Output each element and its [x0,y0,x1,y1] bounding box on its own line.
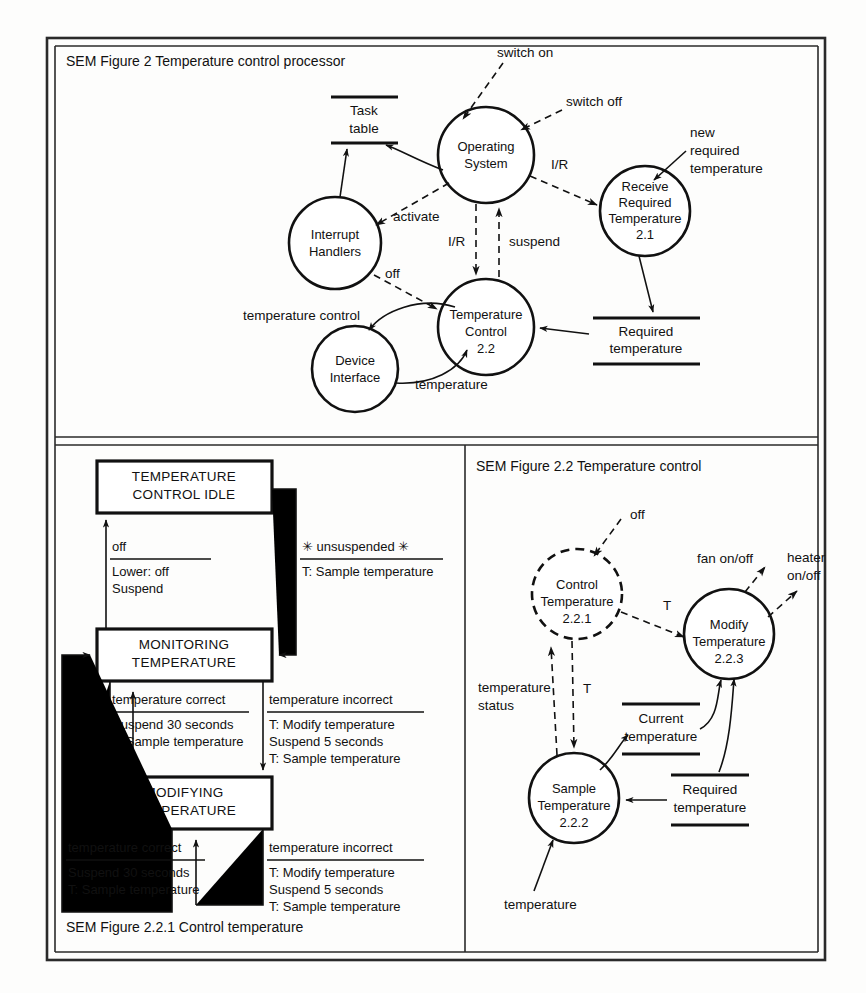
transition-mod-to-mon-condition: temperature correct [68,840,182,855]
store-required-temperature-line2: temperature [610,341,683,356]
diagram-canvas: SEM Figure 2 Temperature control process… [0,0,866,993]
transition-mod-self-action1: T: Modify temperature [269,865,395,880]
flow-new-required-line1: new [690,125,715,140]
process-device-interface-line1: Device [335,353,375,368]
transition-mon-to-idle-action1: Lower: off [112,564,169,579]
store-required-temperature-2-line1: Required [683,782,738,797]
store-required-temperature-2-line2: temperature [674,800,747,815]
transition-mon-to-mod-action3: T: Sample temperature [269,751,401,766]
process-sample-temperature-line2: Temperature [538,798,611,813]
flow-switch-off-label: switch off [566,94,622,109]
process-temperature-control-id: 2.2 [477,341,495,356]
store-current-temperature-line2: temperature [625,729,698,744]
flow-temperature-status-line2: status [478,698,514,713]
fig221-caption: SEM Figure 2.2.1 Control temperature [66,919,304,935]
flow-fan-on-off-label: fan on/off [697,551,753,566]
flow-off-control [594,519,621,556]
flow-t-control-to-sample [572,641,574,748]
fig2-caption: SEM Figure 2 Temperature control process… [66,53,345,69]
process-receive-line2: Required [619,195,672,210]
flow-new-required-line3: temperature [690,161,763,176]
transition-mod-self-line [196,829,263,905]
state-idle-line1: TEMPERATURE [132,469,236,484]
transition-mod-to-mon-action1: Suspend 30 seconds [68,865,190,880]
transition-mod-to-mon-action2: T: Sample temperature [68,882,200,897]
flow-required-store-to-modify [719,679,734,772]
flow-t-control-to-sample-label: T [583,681,591,696]
transition-mon-to-idle-condition: off [112,539,127,554]
process-operating-system-line1: Operating [457,139,514,154]
flow-temperature-control-label: temperature control [243,308,360,323]
transition-mod-self-action3: T: Sample temperature [269,899,401,914]
flow-heater-on-off [768,591,797,617]
process-control-temperature-line1: Control [556,577,598,592]
process-operating-system-line2: System [464,156,507,171]
transition-mod-self-action2: Suspend 5 seconds [269,882,384,897]
process-modify-temperature-id: 2.2.3 [715,651,744,666]
flow-switch-off [521,110,562,130]
process-operating-system[interactable] [438,107,534,203]
process-device-interface-line2: Interface [330,370,381,385]
process-interrupt-line2: Handlers [309,244,362,259]
process-modify-temperature-line2: Temperature [693,634,766,649]
transition-mon-to-idle-action2: Suspend [112,581,163,596]
process-receive-line1: Receive [622,179,669,194]
store-current-temperature-line1: Current [638,711,683,726]
state-monitoring-line1: MONITORING [139,637,230,652]
fig22-caption: SEM Figure 2.2 Temperature control [476,458,701,474]
flow-receive-to-store [639,256,653,312]
flow-suspend-label: suspend [509,234,560,249]
flow-t-control-to-modify-label: T [663,598,671,613]
transition-mon-to-mod-action2: Suspend 5 seconds [269,734,384,749]
state-monitoring-line2: TEMPERATURE [132,655,236,670]
process-sample-temperature-id: 2.2.2 [560,815,589,830]
flow-heater-on-off-line2: on/off [787,568,821,583]
flow-off-interrupt-label: off [385,266,400,281]
flow-off-control-label: off [630,507,645,522]
transition-mon-self-action1: Suspend 30 seconds [112,717,234,732]
process-receive-line3: Temperature [609,211,682,226]
process-modify-temperature-line1: Modify [710,617,749,632]
flow-temperature-status [551,647,557,755]
flow-store-to-temperature-control [540,328,589,334]
transition-mon-to-mod-action1: T: Modify temperature [269,717,395,732]
transition-mod-self-condition: temperature incorrect [269,840,393,855]
state-idle-line2: CONTROL IDLE [133,487,236,502]
transition-idle-to-mon-line [272,489,296,655]
flow-current-store-to-modify [700,680,721,729]
flow-os-to-task-table [386,145,443,170]
store-task-table-line2: table [349,121,378,136]
process-interrupt-handlers[interactable] [289,197,381,289]
flow-temperature-label: temperature [415,377,488,392]
flow-temperature-in-label: temperature [504,897,577,912]
flow-activate-label: activate [393,209,440,224]
flow-ir-down-label: I/R [448,234,466,249]
process-device-interface[interactable] [312,326,398,412]
store-required-temperature-line1: Required [619,324,674,339]
process-receive-id: 2.1 [636,227,654,242]
transition-idle-to-mon-condition: ✳ unsuspended ✳ [302,539,409,554]
flow-t-control-to-modify [621,612,684,637]
flow-temperature-in [534,840,553,891]
transition-mon-self-condition: temperature correct [112,692,226,707]
flow-ir-os-to-receive [530,176,597,205]
transition-idle-to-mon-action1: T: Sample temperature [302,564,434,579]
store-task-table-line1: Task [350,103,378,118]
process-temperature-control-line2: Control [465,324,507,339]
process-control-temperature-id: 2.2.1 [563,611,592,626]
transition-mon-to-mod-condition: temperature incorrect [269,692,393,707]
flow-fan-on-off [745,567,765,592]
process-sample-temperature-line1: Sample [552,781,596,796]
diagram-page: SEM Figure 2 Temperature control process… [0,0,866,993]
flow-interrupt-to-task-table [340,149,347,197]
flow-temperature-status-line1: temperature [478,680,551,695]
flow-heater-on-off-line1: heater [787,550,826,565]
process-interrupt-line1: Interrupt [311,227,360,242]
process-temperature-control-line1: Temperature [450,307,523,322]
flow-switch-on-label: switch on [497,45,553,60]
flow-ir-os-to-receive-label: I/R [551,157,569,172]
process-control-temperature-line2: Temperature [541,594,614,609]
flow-new-required-line2: required [690,143,740,158]
